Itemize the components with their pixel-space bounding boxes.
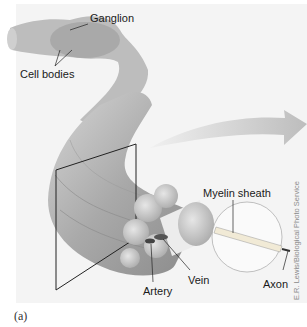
label-artery: Artery <box>143 285 172 297</box>
label-myelin-sheath: Myelin sheath <box>203 187 271 199</box>
label-cell-bodies: Cell bodies <box>20 68 74 80</box>
nerve-illustration <box>0 0 307 327</box>
vein-vessel <box>154 234 168 240</box>
artery-vessel <box>145 239 155 244</box>
label-ganglion: Ganglion <box>90 12 134 24</box>
magnified-axon <box>212 202 290 272</box>
figure-caption: (a) <box>14 309 27 324</box>
label-axon: Axon <box>263 278 288 290</box>
magnify-arrow <box>150 110 307 148</box>
label-vein: Vein <box>188 274 209 286</box>
photo-credit: E.R. Lewis/Biological Photo Service <box>292 181 301 300</box>
